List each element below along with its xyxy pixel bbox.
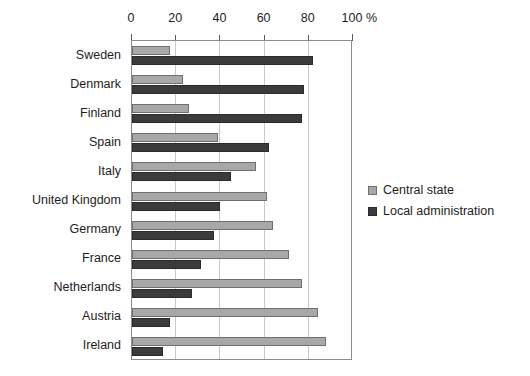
bar-local-administration [132,318,170,327]
bar-local-administration [132,289,192,298]
plot-area [131,40,352,360]
bar-local-administration [132,231,214,240]
bar-chart: 020406080100 % SwedenDenmarkFinlandSpain… [0,0,530,376]
category-label: Netherlands [54,280,121,294]
category-label: Italy [98,164,121,178]
bar-central-state [132,104,189,113]
legend-entry: Local administration [368,204,526,218]
category-label: Finland [80,106,121,120]
bar-central-state [132,337,326,346]
x-axis-tick-label: 100 [342,11,363,25]
bar-central-state [132,192,267,201]
category-label: Germany [70,222,121,236]
bar-central-state [132,133,218,142]
chart-legend: Central stateLocal administration [368,183,526,225]
bar-central-state [132,221,273,230]
bar-local-administration [132,172,231,181]
bar-local-administration [132,56,313,65]
bar-local-administration [132,143,269,152]
legend-label: Central state [383,183,454,197]
category-label: France [82,251,121,265]
bar-local-administration [132,114,302,123]
legend-swatch-local-administration-icon [368,207,377,216]
bar-central-state [132,308,318,317]
x-axis-tick-label: 20 [168,11,182,25]
bar-local-administration [132,347,163,356]
x-axis-tick-label: 40 [212,11,226,25]
x-axis-unit-label: % [366,11,377,25]
bar-local-administration [132,202,220,211]
category-label: Ireland [83,338,121,352]
bar-local-administration [132,260,201,269]
bar-local-administration [132,85,304,94]
x-axis-tick [352,34,353,41]
category-label: Denmark [70,77,121,91]
x-axis-tick-label: 80 [301,11,315,25]
legend-swatch-central-state-icon [368,186,377,195]
bar-central-state [132,75,183,84]
category-label: Spain [89,135,121,149]
bar-central-state [132,250,289,259]
bar-central-state [132,162,256,171]
x-axis-tick-label: 60 [257,11,271,25]
y-axis-category-labels: SwedenDenmarkFinlandSpainItalyUnited Kin… [0,40,127,360]
category-label: Sweden [76,48,121,62]
legend-entry: Central state [368,183,526,197]
x-axis-tick-label: 0 [128,11,135,25]
legend-label: Local administration [383,204,494,218]
bar-central-state [132,279,302,288]
bar-central-state [132,46,170,55]
category-label: United Kingdom [32,193,121,207]
category-label: Austria [82,309,121,323]
